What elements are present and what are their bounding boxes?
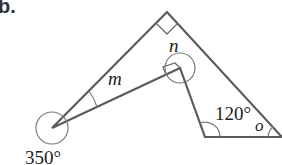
angle-arc-m	[89, 91, 97, 107]
angle-label-n: n	[169, 35, 179, 56]
angle-label-350: 350°	[25, 147, 61, 165]
angle-diagram: m n o 120° 350°	[0, 0, 282, 165]
angle-label-m: m	[108, 68, 122, 89]
angle-arc-o	[268, 127, 273, 137]
angle-label-120: 120°	[215, 103, 251, 124]
right-angle-marker-top	[156, 23, 178, 34]
angle-label-o: o	[255, 116, 264, 135]
